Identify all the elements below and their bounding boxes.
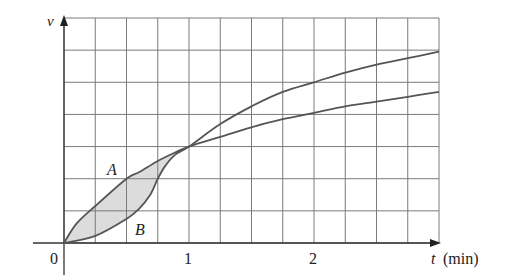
y-axis-arrow-icon [60,15,68,26]
x-axis-label-unit: (min) [443,250,479,268]
curve-a-label: A [106,161,117,178]
y-axis-label: v [47,13,54,29]
x-tick-label-2: 2 [309,250,317,267]
x-tick-label-1: 1 [184,250,192,267]
x-axis-label-variable: t [431,250,436,267]
curve-b-label: B [135,221,145,238]
chart: v 0 1 2 t (min) A B [0,0,512,280]
origin-label: 0 [50,250,58,267]
